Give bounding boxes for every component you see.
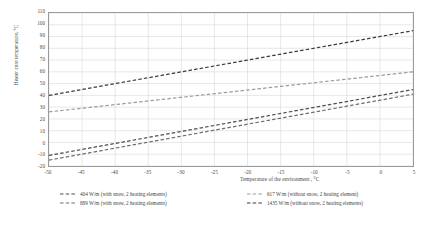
x-tick-label: -5: [335, 170, 359, 175]
series-line: [49, 90, 413, 156]
x-tick-label: -25: [202, 170, 226, 175]
y-tick-label: 30: [23, 105, 45, 110]
legend-line-icon: [60, 192, 77, 196]
y-tick-label: 50: [23, 81, 45, 86]
series-line: [49, 94, 413, 160]
x-tick-label: -45: [69, 170, 93, 175]
x-tick-label: 5: [402, 170, 426, 175]
y-tick-label: -10: [23, 152, 45, 157]
x-tick-label: -40: [103, 170, 127, 175]
legend-label: 889 W/m (with snow, 2 heating elements): [80, 200, 167, 206]
legend-entry: 889 W/m (with snow, 2 heating elements): [60, 200, 225, 206]
y-tick-label: 10: [23, 129, 45, 134]
x-tick-label: -50: [36, 170, 60, 175]
x-tick-label: -35: [136, 170, 160, 175]
legend-label: 617 W/m (without snow, 2 heating element…: [267, 191, 358, 197]
y-axis-title: Heater core temperature, °C: [13, 0, 19, 115]
legend-entry: 1435 W/m (without snow, 2 heating elemen…: [247, 200, 412, 206]
x-tick-label: -20: [236, 170, 260, 175]
y-tick-label: 40: [23, 93, 45, 98]
legend-label: 404 W/m (with snow, 2 heating elements): [80, 191, 167, 197]
y-tick-label: -20: [23, 164, 45, 169]
legend-line-icon: [60, 201, 77, 205]
y-tick-label: 60: [23, 69, 45, 74]
y-tick-label: 80: [23, 45, 45, 50]
legend-label: 1435 W/m (without snow, 2 heating elemen…: [267, 200, 363, 206]
x-axis-title: Temperature of the environment , °C: [240, 176, 319, 182]
y-tick-label: 100: [23, 21, 45, 26]
chart-figure: Heater core temperature, °C -20-10010203…: [0, 0, 429, 227]
plot-area: [48, 12, 414, 167]
chart-legend: 404 W/m (with snow, 2 heating elements)6…: [60, 191, 412, 206]
x-tick-label: -30: [169, 170, 193, 175]
legend-entry: 617 W/m (without snow, 2 heating element…: [247, 191, 412, 197]
y-tick-label: 90: [23, 33, 45, 38]
y-tick-label: 20: [23, 117, 45, 122]
legend-line-icon: [247, 192, 264, 196]
x-tick-label: -10: [302, 170, 326, 175]
y-tick-label: 70: [23, 57, 45, 62]
x-tick-label: -15: [269, 170, 293, 175]
legend-entry: 404 W/m (with snow, 2 heating elements): [60, 191, 225, 197]
series-lines: [49, 13, 413, 166]
series-line: [49, 72, 413, 112]
legend-line-icon: [247, 201, 264, 205]
x-tick-label: 0: [369, 170, 393, 175]
series-line: [49, 31, 413, 96]
y-tick-label: 110: [23, 9, 45, 14]
y-tick-label: 0: [23, 141, 45, 146]
